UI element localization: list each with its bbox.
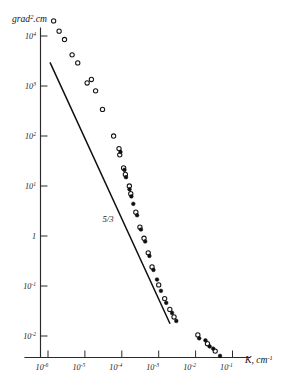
data-point — [157, 283, 161, 287]
data-point — [57, 29, 61, 33]
data-point — [70, 53, 74, 57]
x-tick-label-0: 10-6 — [36, 362, 49, 372]
y-tick-label-1: 103 — [25, 81, 36, 91]
x-tick-label-2: 10-4 — [109, 362, 122, 372]
x-axis-tick-labels: 10-610-510-410-310-210-1 — [36, 362, 234, 372]
data-point — [62, 37, 66, 41]
data-point — [128, 187, 132, 191]
data-point — [130, 195, 134, 199]
data-point — [93, 89, 97, 93]
data-point — [211, 347, 215, 351]
annotations-group: 5/3 — [103, 214, 114, 224]
y-tick-label-4: 1 — [32, 232, 36, 241]
data-point — [174, 319, 178, 323]
data-point — [51, 19, 55, 23]
data-point — [123, 168, 127, 172]
data-point — [148, 254, 152, 258]
data-point — [163, 296, 167, 300]
filled-circle-series — [119, 150, 222, 358]
x-tick-label-3: 10-3 — [146, 362, 159, 372]
data-point — [172, 315, 176, 319]
data-point — [152, 268, 156, 272]
data-point — [135, 213, 139, 217]
x-tick-label-5: 10-1 — [220, 362, 233, 372]
data-point — [124, 175, 128, 179]
data-point — [204, 338, 208, 342]
y-tick-label-2: 102 — [25, 131, 36, 141]
data-point — [131, 202, 135, 206]
slope-annotation: 5/3 — [103, 214, 114, 224]
y-tick-label-3: 101 — [25, 181, 36, 191]
data-point — [85, 81, 89, 85]
x-axis-ticks — [48, 351, 233, 358]
data-point — [218, 354, 222, 358]
reference-line-group — [50, 63, 170, 323]
data-point — [143, 240, 147, 244]
y-tick-label-5: 10-1 — [23, 281, 36, 291]
data-point — [119, 150, 123, 154]
y-tick-label-0: 104 — [25, 31, 36, 41]
data-point — [164, 301, 168, 305]
y-tick-label-6: 10-2 — [23, 331, 36, 341]
data-point — [89, 77, 93, 81]
data-point — [170, 311, 174, 315]
open-circle-series — [51, 19, 217, 353]
data-point — [76, 61, 80, 65]
minus-five-thirds-slope-line — [50, 63, 170, 323]
y-axis-tick-labels: 104103102101110-110-2 — [23, 31, 36, 341]
figure-container: 104103102101110-110-2 10-610-510-410-310… — [0, 0, 290, 390]
y-axis-ticks — [41, 36, 48, 336]
x-tick-label-4: 10-2 — [183, 362, 196, 372]
data-point — [159, 289, 163, 293]
data-point — [139, 228, 143, 232]
data-point — [208, 345, 212, 349]
x-tick-label-1: 10-5 — [72, 362, 85, 372]
data-point — [111, 134, 115, 138]
data-point — [197, 336, 201, 340]
axes-group — [25, 28, 250, 358]
data-point — [155, 278, 159, 282]
x-axis-title: K, cm-1 — [244, 354, 273, 365]
y-axis-title: grad2.cm — [12, 13, 47, 24]
log-log-spectrum-plot: 104103102101110-110-2 10-610-510-410-310… — [0, 0, 290, 390]
data-point — [100, 107, 104, 111]
